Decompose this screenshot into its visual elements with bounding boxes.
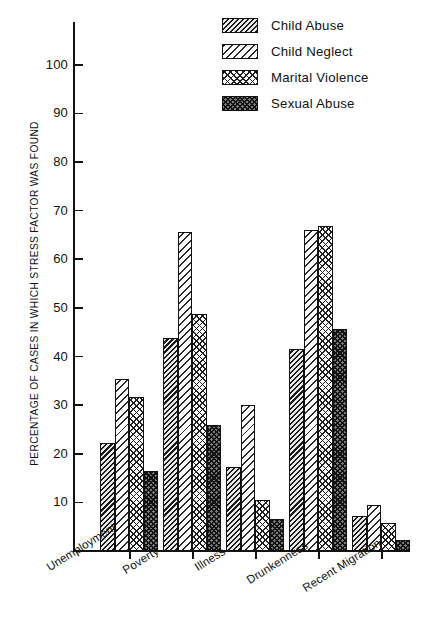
bar-chart-figure: PERCENTAGE OF CASES IN WHICH STRESS FACT… — [0, 0, 425, 635]
y-axis-tick-label: 100 — [20, 57, 68, 73]
legend-swatch-icon — [222, 44, 258, 59]
y-axis-tick — [75, 404, 83, 406]
bar — [318, 226, 333, 551]
chart-legend: Child AbuseChild NeglectMarital Violence… — [222, 12, 422, 116]
y-axis-tick-value: 10 — [28, 494, 68, 509]
y-axis-tick — [75, 113, 83, 115]
y-axis-tick-label: 30 — [20, 397, 68, 413]
x-axis-tick — [381, 552, 383, 559]
bar — [129, 397, 144, 551]
y-axis-tick-label: 70 — [20, 203, 68, 219]
bar — [226, 467, 241, 551]
y-axis-tick-label: 40 — [20, 349, 68, 365]
bar — [304, 230, 319, 551]
y-axis-tick — [75, 64, 83, 66]
y-axis-tick-label: 80 — [20, 154, 68, 170]
bar — [381, 523, 396, 551]
y-axis-tick-label: 60 — [20, 251, 68, 267]
y-axis-tick-label: 90 — [20, 105, 68, 121]
y-axis-tick — [75, 356, 83, 358]
bar — [163, 338, 178, 551]
legend-item-label: Marital Violence — [271, 70, 369, 85]
bar — [396, 540, 411, 551]
legend-item: Child Abuse — [222, 12, 422, 38]
bar — [241, 405, 256, 551]
y-axis-tick — [75, 161, 83, 163]
legend-item-label: Child Neglect — [271, 44, 353, 59]
legend-swatch-icon — [222, 96, 258, 111]
y-axis-tick-value: 70 — [28, 203, 68, 218]
bar — [115, 379, 130, 551]
y-axis-tick — [75, 502, 83, 504]
x-axis-tick — [192, 552, 194, 559]
bar — [192, 314, 207, 551]
x-axis-tick — [318, 552, 320, 559]
y-axis-tick — [75, 258, 83, 260]
legend-item-label: Child Abuse — [271, 18, 344, 33]
bar — [178, 232, 193, 551]
bar — [289, 349, 304, 551]
bar — [207, 425, 222, 551]
legend-item: Child Neglect — [222, 38, 422, 64]
bar — [270, 519, 285, 551]
x-axis-tick — [255, 552, 257, 559]
y-axis-line — [73, 22, 75, 552]
legend-swatch-icon — [222, 70, 258, 85]
y-axis-tick — [75, 453, 83, 455]
y-axis-tick-label: 50 — [20, 300, 68, 316]
bar — [144, 471, 159, 551]
legend-item: Marital Violence — [222, 64, 422, 90]
y-axis-tick-value: 50 — [28, 300, 68, 315]
y-axis-tick-label: 20 — [20, 446, 68, 462]
y-axis-tick-value: 80 — [28, 154, 68, 169]
y-axis-tick — [75, 307, 83, 309]
y-axis-tick-value: 90 — [28, 105, 68, 120]
y-axis-tick-value: 30 — [28, 397, 68, 412]
bar — [333, 329, 348, 551]
y-axis-tick-value: 20 — [28, 446, 68, 461]
y-axis-tick-label: 10 — [20, 494, 68, 510]
y-axis-tick-value: 60 — [28, 251, 68, 266]
bar — [255, 500, 270, 551]
y-axis-tick — [75, 210, 83, 212]
legend-item: Sexual Abuse — [222, 90, 422, 116]
legend-swatch-icon — [222, 18, 258, 33]
y-axis-tick-value: 100 — [28, 57, 68, 72]
legend-item-label: Sexual Abuse — [271, 96, 355, 111]
y-axis-tick-value: 40 — [28, 349, 68, 364]
